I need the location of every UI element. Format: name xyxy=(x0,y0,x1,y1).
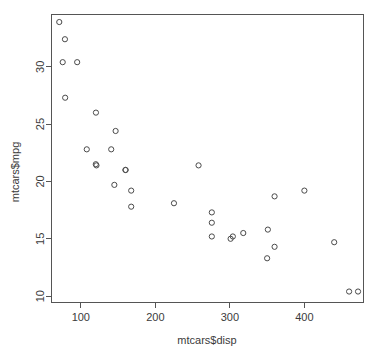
y-tick-label: 20 xyxy=(34,175,46,187)
x-axis-title: mtcars$disp xyxy=(177,334,236,346)
y-tick-label: 10 xyxy=(34,290,46,302)
plot-canvas: 100200300400 1015202530 mtcars$disp mtca… xyxy=(0,0,386,356)
y-tick-label: 15 xyxy=(34,233,46,245)
x-tick-label: 400 xyxy=(295,311,313,323)
x-tick-label: 200 xyxy=(146,311,164,323)
x-tick-label: 100 xyxy=(72,311,90,323)
y-tick-label: 30 xyxy=(34,61,46,73)
y-axis-title: mtcars$mpg xyxy=(9,142,21,203)
scatter-plot-figure: 100200300400 1015202530 mtcars$disp mtca… xyxy=(0,0,386,356)
y-tick-label: 25 xyxy=(34,118,46,130)
x-tick-label: 300 xyxy=(221,311,239,323)
